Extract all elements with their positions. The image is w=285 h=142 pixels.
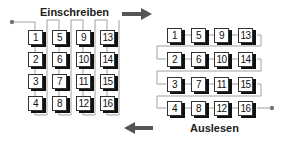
read-cell: 8 [191,101,206,116]
read-cell: 5 [191,28,206,43]
write-cell: 13 [100,30,115,45]
write-cell: 3 [28,74,43,89]
write-cell: 12 [76,96,91,111]
write-cell: 5 [52,30,67,45]
read-cell: 10 [214,52,229,67]
write-title: Einschreiben [40,6,109,18]
write-cell: 7 [52,74,67,89]
write-cell: 8 [52,96,67,111]
write-cell: 9 [76,30,91,45]
connector-lines [0,0,285,142]
read-cell: 6 [191,52,206,67]
read-cell: 15 [238,77,253,92]
read-cell: 3 [167,77,182,92]
write-cell: 14 [100,52,115,67]
read-cell: 7 [191,77,206,92]
read-title: Auslesen [190,122,239,134]
read-cell: 14 [238,52,253,67]
write-cell: 2 [28,52,43,67]
read-cell: 1 [167,28,182,43]
write-cell: 4 [28,96,43,111]
read-cell: 12 [214,101,229,116]
arrow-right-icon [122,8,152,20]
read-cell: 4 [167,101,182,116]
output-dot [270,106,274,110]
read-cell: 9 [214,28,229,43]
write-cell: 16 [100,96,115,111]
input-dot [10,20,14,24]
arrow-left-icon [124,122,154,134]
write-cell: 11 [76,74,91,89]
read-cell: 13 [238,28,253,43]
write-cell: 6 [52,52,67,67]
read-cell: 2 [167,52,182,67]
write-cell: 15 [100,74,115,89]
read-cell: 11 [214,77,229,92]
read-cell: 16 [238,101,253,116]
write-cell: 1 [28,30,43,45]
write-cell: 10 [76,52,91,67]
